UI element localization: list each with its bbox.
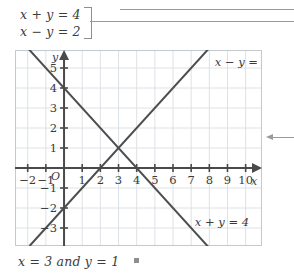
system-of-equations: x + y = 4 x − y = 2	[20, 6, 110, 42]
right-callout-marker	[266, 134, 294, 141]
x-tick-label: 3	[115, 173, 122, 187]
system-leader-line	[90, 21, 294, 22]
y-axis-label: y	[51, 51, 59, 64]
x-tick-label: 5	[151, 173, 158, 187]
equation-line-2: x − y = 2	[20, 23, 110, 40]
answer-marker-square	[134, 258, 139, 263]
x-tick-label: 1	[79, 173, 86, 187]
graph-canvas: −2−112345678910−3−2−112345O x − y = 2x +…	[15, 50, 262, 246]
y-tick-label: 2	[50, 121, 57, 135]
y-tick-label: −3	[40, 221, 57, 235]
line-label: x + y = 4	[195, 215, 249, 229]
y-tick-label: 3	[50, 101, 57, 115]
x-tick-label: 4	[133, 173, 140, 187]
line-annotations: x − y = 2x + y = 4	[195, 55, 262, 229]
x-tick-label: 7	[188, 173, 195, 187]
y-axis-arrow-icon	[59, 50, 69, 60]
line-label: x − y = 2	[215, 55, 262, 69]
x-axis-arrow-icon	[252, 163, 262, 173]
y-tick-label: 4	[50, 81, 57, 95]
callout-leader-line	[272, 137, 294, 138]
x-tick-label: −2	[19, 173, 36, 187]
answer-callout: x = 3 and y = 1	[18, 251, 119, 271]
system-bracket	[84, 7, 92, 39]
answer-text: x = 3 and y = 1	[18, 254, 119, 269]
x-tick-label: 2	[97, 173, 104, 187]
y-tick-label: 1	[50, 141, 57, 155]
x-axis-label: x	[251, 175, 258, 188]
y-tick-label: −1	[40, 181, 57, 195]
answer-leader-line	[120, 9, 294, 10]
x-tick-label: 8	[206, 173, 213, 187]
x-tick-label: 9	[224, 173, 231, 187]
origin-label: O	[51, 170, 60, 183]
coordinate-graph: −2−112345678910−3−2−112345O x − y = 2x +…	[15, 50, 262, 246]
y-tick-label: −2	[40, 201, 57, 215]
x-tick-label: 6	[169, 173, 176, 187]
